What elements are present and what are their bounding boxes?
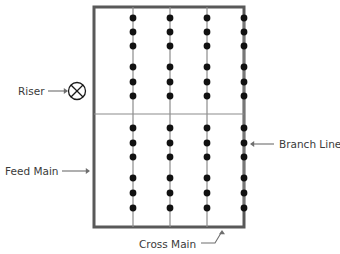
sprinkler-head-dot <box>241 79 248 86</box>
sprinkler-head-dot <box>130 15 137 22</box>
sprinkler-head-dot <box>130 93 137 100</box>
sprinkler-head-dot <box>241 175 248 182</box>
sprinkler-head-dot <box>204 175 211 182</box>
sprinkler-head-dot <box>204 64 211 71</box>
sprinkler-head-dot <box>241 43 248 50</box>
leader-arrow-feed-main <box>86 168 90 174</box>
sprinkler-head-dot <box>204 15 211 22</box>
sprinkler-head-dot <box>167 64 174 71</box>
sprinkler-head-dot <box>204 125 211 132</box>
sprinkler-head-dot <box>167 15 174 22</box>
sprinkler-head-dot <box>167 154 174 161</box>
sprinkler-head-dot <box>130 79 137 86</box>
sprinkler-head-dot <box>241 15 248 22</box>
sprinkler-head-dot <box>204 43 211 50</box>
sprinkler-head-dot <box>204 29 211 36</box>
sprinkler-head-dot <box>130 190 137 197</box>
sprinkler-head-dot <box>241 154 248 161</box>
sprinkler-head-dot <box>130 175 137 182</box>
sprinkler-head-dot <box>167 125 174 132</box>
sprinkler-head-dot <box>130 140 137 147</box>
sprinkler-head-dot <box>167 29 174 36</box>
sprinkler-head-dot <box>241 64 248 71</box>
riser-symbol <box>69 83 86 100</box>
sprinkler-head-dot <box>241 125 248 132</box>
leader-arrow-cross-main <box>219 230 225 234</box>
sprinkler-head-dot <box>204 190 211 197</box>
sprinkler-head-dot <box>130 154 137 161</box>
diagram-canvas: RiserFeed MainBranch LineCross Main <box>0 0 340 254</box>
sprinkler-head-dot <box>130 43 137 50</box>
sprinkler-head-dot <box>167 140 174 147</box>
sprinkler-head-dot <box>130 125 137 132</box>
sprinkler-head-dot <box>241 190 248 197</box>
label-feed-main: Feed Main <box>5 165 58 177</box>
sprinkler-head-dot <box>204 154 211 161</box>
label-riser: Riser <box>18 85 45 97</box>
sprinkler-head-dot <box>204 205 211 212</box>
leader-arrow-riser <box>64 88 68 94</box>
sprinkler-head-dot <box>167 190 174 197</box>
sprinkler-head-dot <box>204 79 211 86</box>
sprinkler-head-dot <box>167 175 174 182</box>
sprinkler-head-dot <box>130 205 137 212</box>
sprinkler-head-dot <box>241 29 248 36</box>
sprinkler-head-dot <box>241 140 248 147</box>
sprinkler-head-dot <box>167 43 174 50</box>
sprinkler-head-dot <box>204 93 211 100</box>
sprinkler-head-dot <box>167 205 174 212</box>
label-cross-main: Cross Main <box>139 238 196 250</box>
label-branch-line: Branch Line <box>279 138 340 150</box>
sprinkler-head-dot <box>241 205 248 212</box>
sprinkler-head-dot <box>204 140 211 147</box>
sprinkler-head-dot <box>167 93 174 100</box>
sprinkler-head-dot <box>167 79 174 86</box>
sprinkler-layout-diagram: RiserFeed MainBranch LineCross Main <box>0 0 340 254</box>
leader-arrow-branch-line <box>250 141 254 147</box>
sprinkler-head-dot <box>130 64 137 71</box>
leader-line-cross-main <box>201 233 221 243</box>
sprinkler-head-dot <box>130 29 137 36</box>
sprinkler-head-dot <box>241 93 248 100</box>
